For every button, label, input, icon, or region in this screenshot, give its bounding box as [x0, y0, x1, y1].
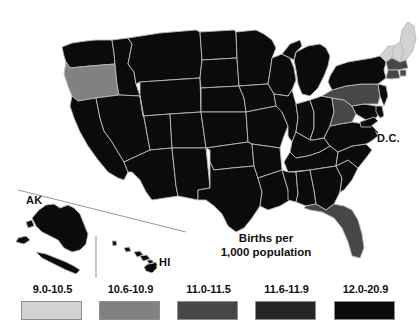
map-legend: 9.0-10.5 10.6-10.9 11.0-11.5 11.6-11.9 1… — [0, 280, 419, 336]
legend-item[interactable]: 11.6-11.9 — [255, 283, 318, 320]
legend-item-swatch — [255, 301, 316, 320]
state-HI[interactable] — [112, 241, 157, 273]
legend-item-swatch — [177, 301, 238, 320]
state-CO[interactable] — [170, 112, 206, 148]
hawaii-inset-label: HI — [159, 256, 170, 268]
contiguous-states — [62, 22, 416, 258]
legend-item-label: 11.6-11.9 — [255, 283, 318, 296]
state-ND[interactable] — [200, 30, 237, 60]
state-NE[interactable] — [201, 86, 246, 112]
alaska-inset-label: AK — [26, 194, 42, 206]
state-WA[interactable] — [62, 40, 115, 68]
choropleth-map: AK HI D.C. Births per 1,000 population — [0, 0, 419, 280]
legend-item[interactable]: 12.0-20.9 — [334, 283, 397, 320]
legend-item-swatch — [99, 301, 160, 320]
state-CT[interactable] — [386, 70, 400, 79]
state-NJ[interactable] — [378, 84, 388, 106]
caption-line-1: Births per — [206, 231, 326, 245]
legend-item[interactable]: 9.0-10.5 — [21, 283, 84, 320]
state-RI[interactable] — [400, 70, 406, 76]
legend-item-label: 12.0-20.9 — [334, 283, 397, 296]
legend-item-swatch — [21, 301, 82, 320]
state-OR[interactable] — [64, 62, 119, 101]
legend-item[interactable]: 10.6-10.9 — [99, 283, 162, 320]
state-AK[interactable] — [16, 204, 88, 274]
map-caption: Births per 1,000 population — [206, 231, 326, 259]
legend-item-label: 11.0-11.5 — [177, 283, 240, 296]
state-MT[interactable] — [128, 30, 202, 84]
inset-alaska[interactable] — [16, 204, 88, 274]
state-WY[interactable] — [140, 78, 201, 116]
legend-item-label: 10.6-10.9 — [99, 283, 162, 296]
map-figure: AK HI D.C. Births per 1,000 population 9… — [0, 0, 419, 336]
inset-hawaii[interactable] — [112, 241, 157, 273]
state-SD[interactable] — [200, 58, 239, 88]
legend-item-label: 9.0-10.5 — [21, 283, 84, 296]
caption-line-2: 1,000 population — [206, 245, 326, 259]
legend-item-swatch — [334, 301, 395, 320]
state-ME[interactable] — [400, 22, 416, 62]
dc-callout-label: D.C. — [377, 132, 400, 144]
legend-item[interactable]: 11.0-11.5 — [177, 283, 240, 320]
